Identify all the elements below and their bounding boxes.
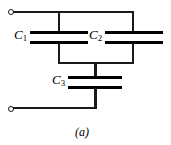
wire-top-lead: [13, 11, 59, 13]
capacitor-c3-label: C3: [52, 73, 65, 88]
capacitor-c3-plate-top: [68, 76, 122, 79]
wire-c1-stem-top: [58, 11, 60, 33]
capacitor-c1-label: C1: [14, 28, 27, 43]
capacitor-c2-plate-bottom: [105, 41, 163, 44]
capacitor-c2-plate-top: [105, 31, 163, 34]
capacitor-c1-label-base: C: [14, 27, 23, 42]
capacitor-c3-label-subscript: 3: [61, 78, 65, 88]
capacitor-c1-label-subscript: 1: [23, 33, 27, 43]
wire-top-rail: [58, 11, 134, 13]
capacitor-c2-label: C2: [89, 28, 102, 43]
figure-caption: (a): [75, 126, 89, 138]
capacitor-c2-label-base: C: [89, 27, 98, 42]
wire-c3-stem-bottom: [94, 88, 97, 109]
wire-c2-stem-bottom: [132, 43, 134, 64]
wire-c2-stem-top: [132, 11, 134, 33]
capacitor-circuit-figure: C1 C2 C3 (a): [0, 0, 171, 145]
wire-c1-stem-bottom: [58, 43, 60, 64]
capacitor-c2-label-subscript: 2: [98, 33, 102, 43]
capacitor-c1-plate-top: [30, 31, 88, 34]
capacitor-c3-label-base: C: [52, 72, 61, 87]
wire-bottom-rail: [13, 107, 97, 109]
